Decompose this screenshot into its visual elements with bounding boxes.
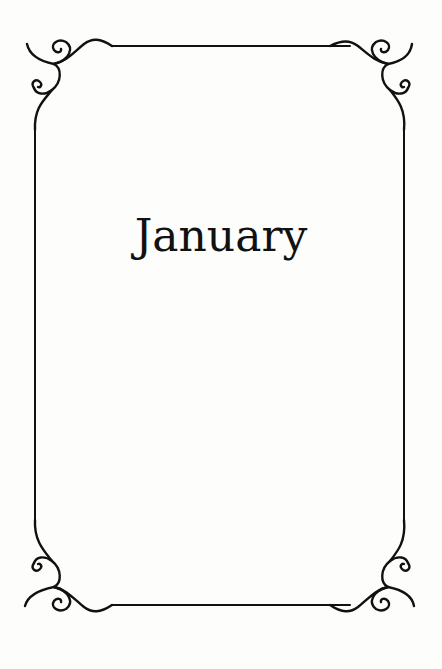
- corner-ornament-bottom-left: [25, 520, 112, 611]
- corner-ornament-top-left: [27, 40, 112, 130]
- ornamental-frame: [0, 0, 442, 669]
- page: January: [0, 0, 442, 669]
- corner-ornament-top-right: [330, 41, 412, 130]
- corner-ornament-bottom-right: [330, 520, 414, 611]
- page-title: January: [0, 206, 442, 266]
